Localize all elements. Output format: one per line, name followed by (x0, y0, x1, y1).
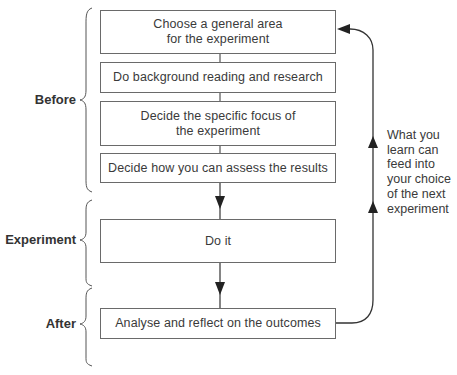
phase-label-before: Before (0, 92, 76, 107)
step-label: Decide the specific focus of the experim… (141, 109, 296, 139)
experiment-brace (80, 200, 92, 286)
arrow-left-icon (337, 24, 350, 34)
step-assess-results: Decide how you can assess the results (100, 153, 336, 183)
step-label: Choose a general area for the experiment (153, 17, 282, 47)
step-analyse-reflect: Analyse and reflect on the outcomes (100, 308, 336, 339)
step-decide-focus: Decide the specific focus of the experim… (100, 101, 336, 146)
feedback-note: What you learn can feed into your choice… (387, 128, 451, 216)
step-label: Do it (205, 234, 231, 249)
step-do-it: Do it (100, 219, 336, 263)
phase-label-experiment: Experiment (0, 232, 76, 247)
step-label: Decide how you can assess the results (108, 161, 328, 176)
experiment-cycle-diagram: Before Experiment After Choose a general… (0, 0, 457, 375)
step-background-reading: Do background reading and research (100, 62, 336, 93)
arrow-up-icon (368, 136, 378, 148)
arrow-up-icon (368, 201, 378, 213)
step-label: Do background reading and research (113, 70, 323, 85)
step-label: Analyse and reflect on the outcomes (115, 316, 321, 331)
after-brace (80, 288, 92, 366)
arrow-down-icon (215, 196, 225, 209)
arrow-down-icon (215, 282, 225, 295)
phase-label-after: After (0, 316, 76, 331)
before-brace (80, 8, 92, 192)
step-choose-area: Choose a general area for the experiment (100, 10, 336, 54)
feedback-loop-line (336, 29, 373, 323)
